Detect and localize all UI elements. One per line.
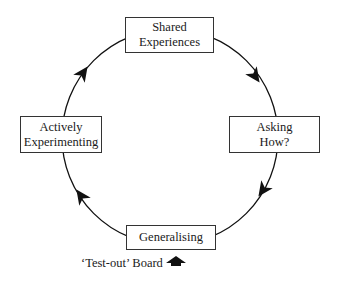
node-generalising: Generalising: [126, 225, 216, 250]
node-actively-experimenting: Actively Experimenting: [20, 116, 102, 153]
node-asking-how: Asking How?: [229, 116, 320, 153]
up-arrow-icon: [166, 256, 186, 266]
node-shared-experiences: Shared Experiences: [125, 17, 214, 53]
arrowhead-actively-to-shared: [73, 62, 93, 82]
arrowhead-asking-to-generalising: [253, 180, 273, 200]
arrowhead-shared-to-asking: [245, 66, 265, 86]
test-out-board-label: ‘Test-out’ Board: [81, 256, 163, 271]
arrowhead-generalising-to-actively: [71, 185, 91, 205]
